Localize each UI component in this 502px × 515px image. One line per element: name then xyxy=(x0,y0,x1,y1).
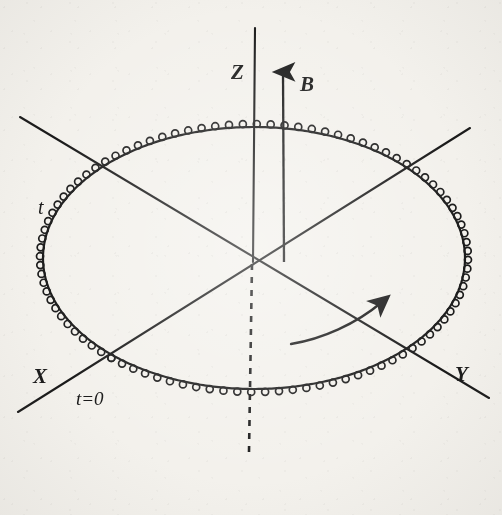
spiral-loop xyxy=(80,335,87,342)
magnetic-field-arrow xyxy=(283,72,284,262)
spiral-loop xyxy=(434,324,441,331)
magnetic-field-label: B xyxy=(300,72,314,97)
spiral-loop xyxy=(67,185,74,192)
spiral-loop xyxy=(430,181,437,188)
spiral-loop xyxy=(60,193,67,200)
t-label: t xyxy=(38,196,44,219)
spiral-loop xyxy=(426,331,433,338)
z-axis-solid xyxy=(253,28,255,262)
t-zero-label: t=0 xyxy=(76,388,104,410)
spiral-loop xyxy=(441,316,448,323)
z-axis-label: Z xyxy=(231,60,244,85)
z-axis-dashed xyxy=(249,264,252,452)
spiral-loop xyxy=(71,328,78,335)
spiral-loop xyxy=(437,188,444,195)
spiral-loop xyxy=(75,178,82,185)
spiral-loop xyxy=(421,174,428,181)
spiral-loop xyxy=(64,321,71,328)
x-axis-label: X xyxy=(33,364,47,389)
y-axis-label: Y xyxy=(455,362,468,387)
rotation-direction-arrow xyxy=(291,302,382,344)
spin-precession-figure xyxy=(0,0,502,515)
